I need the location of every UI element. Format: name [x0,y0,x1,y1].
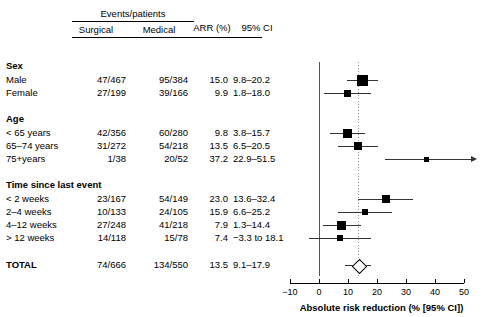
group-title-age: Age [6,113,24,124]
x-axis-line [290,283,464,284]
estimate-marker [354,142,362,150]
table-row: < 2 weeks 23/167 54/149 23.0 13.6–32.4 [0,193,280,206]
row-arr: 9.9 [186,87,228,98]
pooled-estimate-line [358,62,359,276]
row-medical: 39/166 [128,87,188,98]
column-header-surgical: Surgical [66,24,126,35]
row-surgical: 42/356 [64,127,126,138]
row-surgical: 23/167 [64,193,126,204]
header-rule-bottom [72,37,262,38]
header-rule-top [72,21,194,22]
x-axis-tick-label: 30 [391,287,421,297]
estimate-marker [382,195,390,203]
x-axis-tick [464,279,465,283]
column-header-events-patients: Events/patients [72,8,194,19]
x-axis-title: Absolute risk reduction (% [95% CI]) [270,302,493,313]
table-row: 65–74 years 31/272 54/218 13.5 6.5–20.5 [0,140,280,153]
row-arr: 7.9 [186,219,228,230]
row-medical: 20/52 [128,153,188,164]
row-arr: 13.5 [186,259,228,270]
x-axis-tick-label: 10 [333,287,363,297]
row-arr: 13.5 [186,140,228,151]
table-row: Male 47/467 95/384 15.0 9.8–20.2 [0,74,280,87]
row-medical: 60/280 [128,127,188,138]
x-axis-tick-label: 0 [304,287,334,297]
column-header-arr: ARR (%) [190,22,234,33]
row-surgical: 31/272 [64,140,126,151]
x-axis-tick-label: 40 [420,287,450,297]
row-arr: 7.4 [186,232,228,243]
table-row: 75+years 1/38 20/52 37.2 22.9–51.5 [0,153,280,166]
x-axis-tick [435,279,436,283]
x-axis-tick [348,279,349,283]
x-axis-tick-label: 50 [449,287,479,297]
row-surgical: 74/666 [64,259,126,270]
table-row-total: TOTAL 74/666 134/550 13.5 9.1–17.9 [0,259,280,272]
table-row: > 12 weeks 14/118 15/78 7.4 −3.3 to 18.1 [0,232,280,245]
estimate-marker [344,90,351,97]
row-surgical: 47/467 [64,74,126,85]
zero-reference-line [319,62,320,276]
row-arr: 37.2 [186,153,228,164]
row-medical: 15/78 [128,232,188,243]
forest-plot-area: −1001020304050 Absolute risk reduction (… [270,0,493,317]
row-surgical: 27/248 [64,219,126,230]
pooled-estimate-diamond [351,258,367,274]
estimate-marker [343,129,352,138]
row-medical: 24/105 [128,206,188,217]
estimate-marker [337,235,343,241]
x-axis-tick-label: 20 [362,287,392,297]
x-axis-tick [406,279,407,283]
row-surgical: 27/199 [64,87,126,98]
x-axis-tick-label: −10 [275,287,305,297]
row-arr: 23.0 [186,193,228,204]
table-row: Female 27/199 39/166 9.9 1.8–18.0 [0,87,280,100]
row-surgical: 10/133 [64,206,126,217]
row-medical: 54/218 [128,140,188,151]
row-medical: 54/149 [128,193,188,204]
ci-arrowhead-icon [471,156,477,162]
column-header-medical: Medical [128,24,190,35]
table-row: 2–4 weeks 10/133 24/105 15.9 6.6–25.2 [0,206,280,219]
x-axis-tick [319,279,320,283]
row-arr: 15.9 [186,206,228,217]
forest-plot-figure: Events/patients Surgical Medical ARR (%)… [0,0,493,317]
row-arr: 15.0 [186,74,228,85]
estimate-marker [337,221,346,230]
estimate-marker [357,75,368,86]
group-title-time: Time since last event [6,179,101,190]
row-medical: 134/550 [128,259,188,270]
row-medical: 95/384 [128,74,188,85]
table-row: < 65 years 42/356 60/280 9.8 3.8–15.7 [0,127,280,140]
row-surgical: 14/118 [64,232,126,243]
row-surgical: 1/38 [64,153,126,164]
estimate-marker [424,157,429,162]
x-axis-tick [290,279,291,283]
row-arr: 9.8 [186,127,228,138]
group-title-sex: Sex [6,60,23,71]
table-row: 4–12 weeks 27/248 41/218 7.9 1.3–14.4 [0,219,280,232]
estimate-marker [362,209,368,215]
x-axis-tick [377,279,378,283]
row-medical: 41/218 [128,219,188,230]
